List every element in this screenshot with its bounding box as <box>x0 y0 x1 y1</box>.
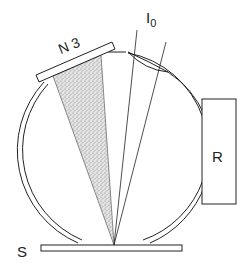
integrating-sphere-diagram: N 3 I0 R S <box>0 0 250 264</box>
reference-port: R <box>202 99 236 204</box>
beam-label: I0 <box>146 9 156 29</box>
reference-label: R <box>212 148 223 165</box>
detector-view-cone <box>53 55 114 245</box>
port-cap-label: N 3 <box>56 34 82 57</box>
sample-label: S <box>17 243 27 260</box>
sample-plate: S <box>17 243 182 260</box>
